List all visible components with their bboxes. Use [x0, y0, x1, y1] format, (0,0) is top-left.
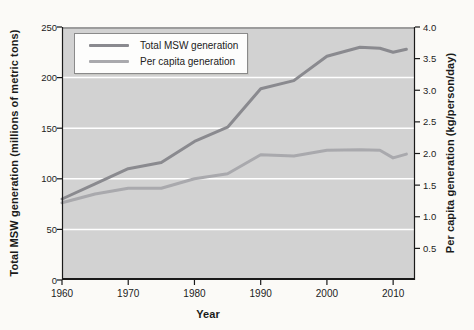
x-tick-label: 1980 — [176, 288, 212, 299]
legend-item-total-msw: Total MSW generation — [75, 40, 247, 51]
legend: Total MSW generation Per capita generati… — [74, 33, 248, 74]
right-axis-title: Per capita generation (kg/person/day) — [444, 27, 458, 280]
chart-figure: 0501001502002500.51.01.52.02.53.03.54.01… — [0, 0, 474, 330]
total-msw-line-swatch — [89, 44, 129, 47]
legend-item-per-capita: Per capita generation — [75, 56, 247, 67]
x-axis-title: Year — [0, 308, 416, 320]
y-left-tick-label: 200 — [27, 72, 57, 83]
x-tick-label: 2000 — [309, 288, 345, 299]
legend-label-per-capita: Per capita generation — [140, 56, 235, 67]
x-tick-label: 2010 — [375, 288, 411, 299]
legend-label-total-msw: Total MSW generation — [140, 40, 238, 51]
y-left-tick-label: 0 — [27, 275, 57, 286]
x-tick-label: 1970 — [110, 288, 146, 299]
y-left-tick-label: 250 — [27, 22, 57, 33]
left-axis-title: Total MSW generation (millions of metric… — [8, 27, 22, 280]
y-left-tick-label: 50 — [27, 224, 57, 235]
per-capita-line-swatch — [89, 60, 129, 63]
y-left-tick-label: 150 — [27, 123, 57, 134]
y-left-tick-label: 100 — [27, 173, 57, 184]
x-tick-label: 1990 — [243, 288, 279, 299]
x-tick-label: 1960 — [44, 288, 80, 299]
